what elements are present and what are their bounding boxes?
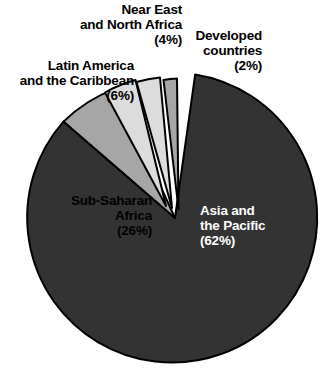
pie-label-developed-countries: Developed countries (2%) — [160, 28, 262, 73]
pie-label-latin-america-and-the-caribbean: Latin America and the Caribbean (6%) — [0, 58, 134, 103]
pie-chart-figure: Near East and North Africa (4%) Develope… — [0, 0, 321, 379]
pie-label-asia-and-the-pacific: Asia and the Pacific (62%) — [200, 203, 310, 248]
pie-label-sub-saharan-africa: Sub-Saharan Africa (26%) — [44, 193, 152, 238]
